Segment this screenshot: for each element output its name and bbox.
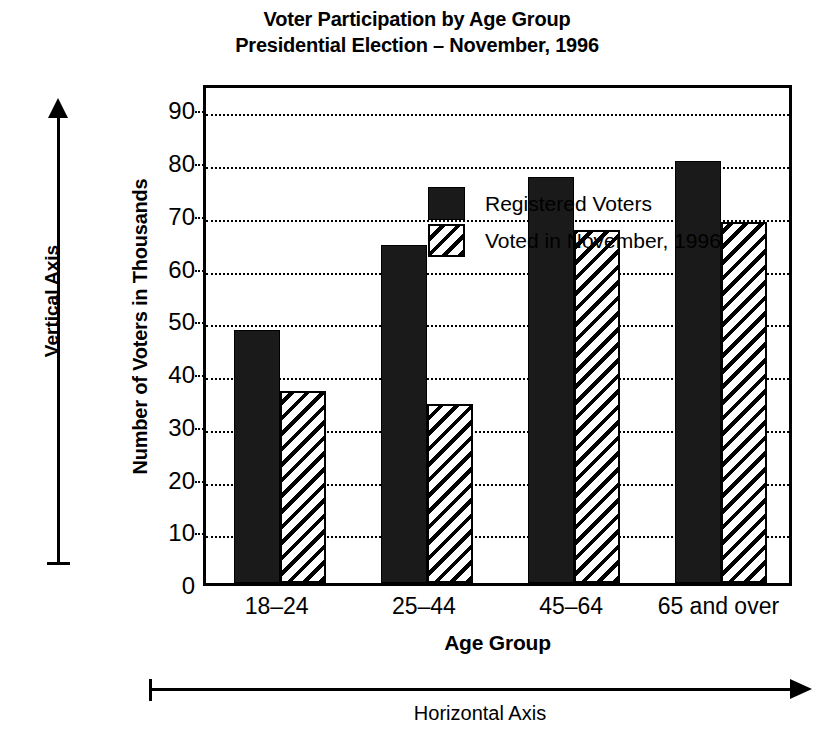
- horizontal-axis-line: [150, 688, 795, 691]
- x-axis-tick-label: 18–24: [203, 592, 350, 620]
- chart-title-line-2: Presidential Election – November, 1996: [0, 32, 834, 58]
- chart-title-line-1: Voter Participation by Age Group: [0, 6, 834, 32]
- vertical-axis-annotation-label: Vertical Axis: [41, 221, 63, 381]
- bar-group: [381, 88, 473, 583]
- legend-swatch-registered-icon: [428, 187, 465, 220]
- bar-registered: [234, 330, 280, 583]
- legend-label-registered: Registered Voters: [485, 192, 652, 216]
- x-axis-tick-label: 65 and over: [645, 592, 792, 620]
- horizontal-axis-annotation-label: Horizontal Axis: [140, 702, 820, 725]
- plot-inner: [206, 88, 789, 583]
- horizontal-axis-annotation: Horizontal Axis: [140, 668, 820, 738]
- legend-swatch-voted-icon: [428, 224, 465, 257]
- arrow-up-icon: [48, 98, 68, 118]
- chart-legend: Registered Voters Voted in November, 199…: [428, 185, 758, 259]
- x-axis-title: Age Group: [203, 631, 792, 655]
- vertical-axis-end-tick: [47, 562, 70, 565]
- legend-item-voted: Voted in November, 1996: [428, 222, 758, 259]
- bar-voted: [427, 404, 473, 583]
- legend-item-registered: Registered Voters: [428, 185, 758, 222]
- chart-title: Voter Participation by Age Group Preside…: [0, 6, 834, 58]
- x-axis-tick-label: 45–64: [498, 592, 645, 620]
- bar-group: [675, 88, 767, 583]
- x-axis-tick-label: 25–44: [350, 592, 497, 620]
- bar-registered: [381, 245, 427, 583]
- plot-area: Registered Voters Voted in November, 199…: [203, 85, 792, 586]
- bar-group: [528, 88, 620, 583]
- vertical-axis-annotation: Vertical Axis: [30, 90, 74, 590]
- bar-voted: [574, 230, 620, 583]
- x-axis-tick-labels: 18–2425–4445–6465 and over: [203, 592, 792, 626]
- bar-group: [234, 88, 326, 583]
- arrow-right-icon: [790, 679, 812, 699]
- bar-voted: [280, 391, 326, 583]
- y-axis-tick-stubs: [135, 85, 207, 586]
- legend-label-voted: Voted in November, 1996: [485, 229, 721, 253]
- bar-voted: [721, 222, 767, 583]
